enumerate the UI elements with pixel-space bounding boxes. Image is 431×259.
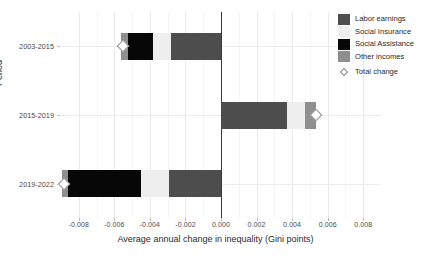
y-tick-label: 2003-2015 — [0, 42, 54, 51]
x-tick-label: 0.006 — [319, 221, 337, 228]
x-tick-mark — [328, 218, 329, 221]
bar-segment-insurance — [153, 33, 171, 60]
x-tick-label: 0.000 — [212, 221, 230, 228]
chart-figure: -0.008-0.006-0.004-0.0020.0000.0020.0040… — [0, 0, 431, 259]
bar-segment-insurance — [287, 102, 305, 129]
legend-swatch-other-icon — [338, 51, 350, 62]
y-tick-label: 2015-2019 — [0, 111, 54, 120]
legend-label-assistance: Social Assistance — [355, 40, 414, 48]
x-tick-label: -0.008 — [69, 221, 89, 228]
y-tick-mark — [57, 115, 60, 116]
x-tick-label: 0.008 — [354, 221, 372, 228]
legend-label-other: Other incomes — [355, 53, 404, 61]
bar-segment-labor — [169, 170, 221, 197]
x-tick-mark — [363, 218, 364, 221]
legend-swatch-assistance-icon — [338, 39, 350, 50]
x-axis-label: Average annual change in inequality (Gin… — [0, 234, 431, 244]
bar-segment-assistance — [68, 170, 141, 197]
x-tick-mark — [257, 218, 258, 221]
stacked-bar — [61, 170, 381, 197]
legend-swatch-labor-icon — [338, 14, 350, 25]
stacked-bar — [61, 102, 381, 129]
x-tick-label: 0.002 — [248, 221, 266, 228]
x-tick-label: -0.004 — [140, 221, 160, 228]
x-tick-mark — [150, 218, 151, 221]
legend-item-total-change: Total change — [338, 66, 430, 79]
bar-segment-labor — [171, 33, 221, 60]
legend-label-insurance: Social Insurance — [355, 28, 411, 36]
y-axis-label: Period — [0, 60, 4, 86]
x-tick-label: -0.006 — [104, 221, 124, 228]
x-tick-label: -0.002 — [175, 221, 195, 228]
legend-item-labor: Labor earnings — [338, 13, 430, 26]
bar-segment-insurance — [141, 170, 169, 197]
y-tick-label: 2019-2022 — [0, 179, 54, 188]
x-tick-label: 0.004 — [283, 221, 301, 228]
x-tick-mark — [79, 218, 80, 221]
stacked-bar — [61, 33, 381, 60]
legend-item-assistance: Social Assistance — [338, 38, 430, 51]
x-tick-mark — [114, 218, 115, 221]
diamond-marker-icon — [338, 67, 350, 78]
x-tick-mark — [221, 218, 222, 221]
y-tick-mark — [57, 46, 60, 47]
legend-item-other: Other incomes — [338, 51, 430, 64]
legend-items: Labor earningsSocial InsuranceSocial Ass… — [338, 13, 430, 63]
x-tick-mark — [292, 218, 293, 221]
bar-segment-assistance — [128, 33, 154, 60]
legend-label-total-change: Total change — [355, 68, 398, 76]
legend-item-insurance: Social Insurance — [338, 26, 430, 39]
x-tick-mark — [185, 218, 186, 221]
chart-legend: Labor earningsSocial InsuranceSocial Ass… — [338, 13, 430, 79]
plot-area — [61, 12, 381, 218]
y-tick-mark — [57, 184, 60, 185]
legend-label-labor: Labor earnings — [355, 15, 406, 23]
bar-segment-labor — [221, 102, 287, 129]
legend-swatch-insurance-icon — [338, 26, 350, 37]
